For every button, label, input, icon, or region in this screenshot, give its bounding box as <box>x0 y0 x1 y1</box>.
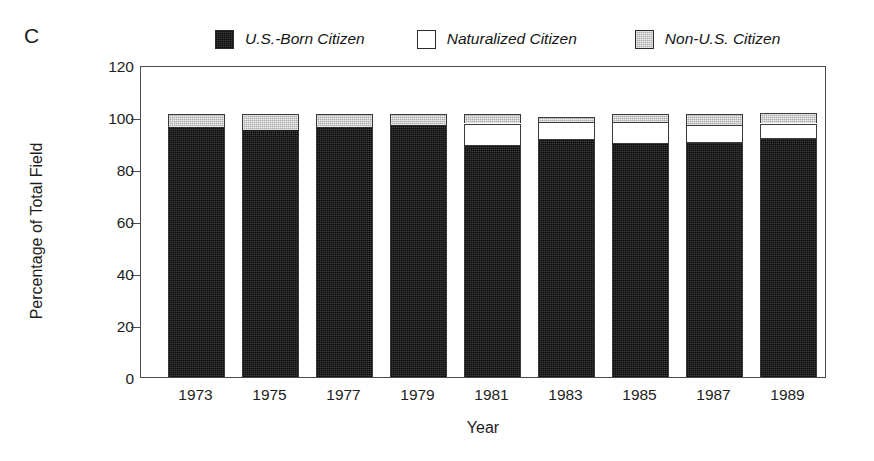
y-axis-title: Percentage of Total Field <box>28 142 46 319</box>
legend-label: Non-U.S. Citizen <box>665 30 780 48</box>
x-tick-label: 1985 <box>622 386 656 404</box>
bar-segment <box>168 114 225 127</box>
bar-group <box>760 65 817 377</box>
x-tick-label: 1987 <box>696 386 730 404</box>
bar-group <box>686 65 743 377</box>
bar-segment <box>538 122 595 140</box>
plot-area: 020406080100120 <box>141 67 825 377</box>
y-tick-label: 20 <box>117 318 134 336</box>
legend-swatch-gray <box>635 30 654 49</box>
y-tick-label: 0 <box>125 370 134 388</box>
x-tick-label: 1989 <box>770 386 804 404</box>
bar-segment <box>168 127 225 377</box>
bar-segment <box>686 114 743 124</box>
bar-segment <box>464 146 521 377</box>
bar-group <box>464 65 521 377</box>
y-tick-label: 120 <box>108 58 134 76</box>
bar-group <box>538 65 595 377</box>
bar-segment <box>316 127 373 377</box>
bar-segment <box>612 114 669 122</box>
x-axis-title: Year <box>467 419 499 437</box>
bar-segment <box>538 117 595 122</box>
bar-group <box>242 65 299 377</box>
y-tick-label: 60 <box>117 214 134 232</box>
bar-segment <box>390 114 447 124</box>
bar-group <box>390 65 447 377</box>
legend-label: Naturalized Citizen <box>447 30 577 48</box>
bar-segment <box>464 124 521 146</box>
legend-item: Non-U.S. Citizen <box>635 30 780 49</box>
bar-segment <box>242 114 299 130</box>
chart-legend: U.S.-Born CitizenNaturalized CitizenNon-… <box>215 24 815 54</box>
bar-group <box>316 65 373 377</box>
x-tick-label: 1975 <box>252 386 286 404</box>
y-tick-label: 100 <box>108 110 134 128</box>
bar-segment <box>760 139 817 377</box>
bar-segment <box>464 114 521 123</box>
x-tick-label: 1973 <box>178 386 212 404</box>
bar-segment <box>686 143 743 377</box>
x-tick-label: 1979 <box>400 386 434 404</box>
plot-frame: 020406080100120 <box>140 66 826 378</box>
bar-group <box>168 65 225 377</box>
bar-segment <box>538 140 595 377</box>
bar-segment <box>760 113 817 123</box>
bar-segment <box>612 122 669 144</box>
bar-segment <box>760 124 817 140</box>
bar-segment <box>390 125 447 377</box>
y-tick-label: 80 <box>117 162 134 180</box>
bar-segment <box>686 125 743 143</box>
x-tick-label: 1983 <box>548 386 582 404</box>
bar-segment <box>612 144 669 377</box>
figure-panel-c: C U.S.-Born CitizenNaturalized CitizenNo… <box>0 0 874 461</box>
legend-item: U.S.-Born Citizen <box>215 30 365 49</box>
legend-swatch-dark <box>215 30 234 49</box>
bar-segment <box>242 130 299 377</box>
panel-label: C <box>24 24 40 48</box>
legend-swatch-white <box>417 30 436 49</box>
legend-label: U.S.-Born Citizen <box>245 30 365 48</box>
bar-segment <box>316 114 373 127</box>
legend-item: Naturalized Citizen <box>417 30 577 49</box>
x-tick-label: 1977 <box>326 386 360 404</box>
y-tick-label: 40 <box>117 266 134 284</box>
x-tick-label: 1981 <box>474 386 508 404</box>
bar-group <box>612 65 669 377</box>
